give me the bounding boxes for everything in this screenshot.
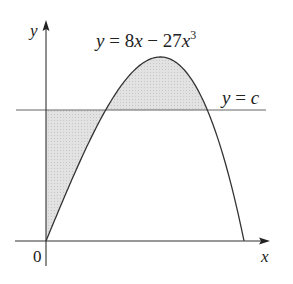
eq-part1: = 8 (104, 30, 134, 51)
area-between-curves-figure: y 0 x y = 8x − 27x3 y = c (0, 0, 293, 284)
shaded-region-left (46, 110, 105, 241)
line-equation-label: y = c (220, 87, 260, 108)
origin-label: 0 (33, 247, 42, 266)
line-y: y (220, 87, 231, 108)
eq-y: y (94, 30, 105, 51)
shaded-region-top (105, 57, 207, 110)
line-c: c (251, 87, 260, 108)
eq-part2: − 27 (143, 30, 182, 51)
curve-equation-label: y = 8x − 27x3 (94, 28, 196, 51)
y-axis-label: y (28, 21, 38, 40)
diagram-canvas: y 0 x y = 8x − 27x3 y = c (0, 0, 293, 284)
x-axis-label: x (260, 247, 269, 266)
line-eq: = (230, 87, 250, 108)
eq-exponent: 3 (190, 28, 196, 42)
